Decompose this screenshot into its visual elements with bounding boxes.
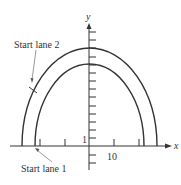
x-axis-label: x: [173, 140, 179, 151]
start-lane-1-label: Start lane 1: [21, 163, 67, 174]
start-lane-2-label: Start lane 2: [14, 39, 60, 50]
track-diagram: Start lane 2 Start lane 1 10 1 x y: [0, 0, 181, 185]
x-tick-label-10: 10: [107, 151, 117, 162]
y-axis-ticks: [89, 32, 96, 163]
start-lane-1-leader: [37, 150, 52, 162]
y-tick-label-1: 1: [82, 134, 87, 145]
y-axis-arrow-icon: [87, 23, 92, 29]
y-axis-label: y: [85, 11, 91, 22]
start-lane-2-leader: [32, 50, 36, 80]
x-axis-arrow-icon: [165, 144, 172, 149]
start-lane-2-arrow-icon: [31, 78, 34, 83]
